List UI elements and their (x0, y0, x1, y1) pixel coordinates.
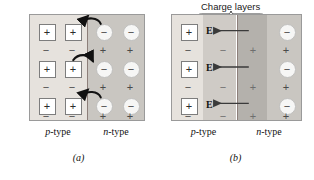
p-type-suffix: -type (196, 126, 217, 137)
n-donor-symbol: − (96, 24, 113, 41)
e-field-label: E (206, 62, 213, 73)
junction-line (237, 15, 238, 120)
panel-b-caption: (b) (157, 152, 314, 163)
p-free-charge: − (67, 45, 78, 56)
n-free-charge: + (125, 45, 136, 56)
n-free-charge: + (98, 45, 109, 56)
n-donor-symbol: − (279, 24, 296, 41)
panel-a-caption: (a) (0, 152, 157, 163)
p-acceptor-symbol: + (39, 24, 56, 41)
p-acceptor-symbol: + (39, 61, 56, 78)
n-free-charge: + (281, 45, 292, 56)
charge-layer-n-charge: + (248, 45, 259, 56)
n-free-charge: + (281, 111, 292, 122)
n-donor-symbol: − (123, 61, 140, 78)
charge-layer-n-charge: + (248, 111, 259, 122)
panel-a: + + + + + + − − − − − − − − − − − − + + … (0, 0, 157, 180)
panel-b-diagram: + + + − − − − − − + + + − − − + + + E (171, 14, 302, 121)
charge-layer-p-charge: − (218, 111, 229, 122)
p-free-charge: − (41, 82, 52, 93)
n-free-charge: + (98, 111, 109, 122)
panel-b-p-type-label: p-type (171, 126, 236, 137)
panel-a-p-type-label: p-type (29, 126, 87, 137)
n-type-suffix: -type (261, 126, 282, 137)
n-donor-symbol: − (96, 61, 113, 78)
charge-layer-p-charge: − (218, 45, 229, 56)
charge-layer-n-fill (237, 15, 268, 120)
p-free-charge: − (183, 45, 194, 56)
p-acceptor-symbol: + (65, 24, 82, 41)
p-acceptor-symbol: + (65, 61, 82, 78)
p-type-suffix: -type (50, 126, 71, 137)
panel-a-diagram: + + + + + + − − − − − − − − − − − − + + … (29, 14, 145, 121)
charge-layer-p-charge: − (218, 82, 229, 93)
e-field-label: E (206, 25, 213, 36)
p-acceptor-symbol: + (181, 61, 198, 78)
panel-b: Charge layers + + + − − − − − − + + (157, 0, 314, 180)
junction-line (87, 15, 88, 120)
e-field-label: E (206, 99, 213, 110)
n-type-suffix: -type (108, 126, 129, 137)
p-free-charge: − (41, 45, 52, 56)
n-free-charge: + (125, 82, 136, 93)
n-free-charge: + (98, 82, 109, 93)
p-free-charge: − (183, 111, 194, 122)
panel-a-n-type-label: n-type (87, 126, 145, 137)
p-free-charge: − (67, 111, 78, 122)
pn-junction-figure: + + + + + + − − − − − − − − − − − − + + … (0, 0, 314, 180)
n-donor-symbol: − (123, 24, 140, 41)
n-free-charge: + (125, 111, 136, 122)
p-free-charge: − (41, 111, 52, 122)
n-donor-symbol: − (279, 61, 296, 78)
p-acceptor-symbol: + (181, 24, 198, 41)
n-free-charge: + (281, 82, 292, 93)
panel-b-n-type-label: n-type (236, 126, 302, 137)
p-free-charge: − (183, 82, 194, 93)
charge-layer-n-charge: + (248, 82, 259, 93)
p-free-charge: − (67, 82, 78, 93)
